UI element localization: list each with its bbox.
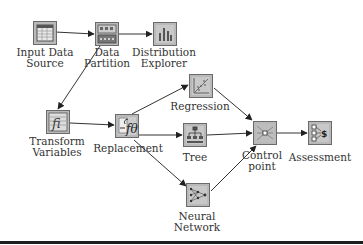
neural-network-label: Neural Network	[174, 211, 220, 233]
neural-network-icon	[187, 184, 209, 206]
control-point-label: Control point	[242, 150, 282, 172]
svg-text:fθ: fθ	[125, 122, 138, 136]
neural-network-node[interactable]	[186, 183, 210, 207]
decision-tree-icon	[184, 124, 206, 146]
regression-label: Regression	[170, 101, 229, 112]
scatter-regression-icon	[190, 75, 212, 97]
data-table-icon	[34, 22, 56, 44]
distribution-explorer-label: Distribution Explorer	[132, 47, 196, 69]
regression-node[interactable]	[189, 74, 213, 98]
edge-transform-replacement	[70, 123, 114, 125]
bottom-divider	[0, 241, 363, 244]
edge-input-partition	[55, 32, 94, 34]
control-point-icon	[254, 122, 276, 144]
distribution-explorer-node[interactable]	[153, 22, 177, 46]
transform-icon: fi	[47, 111, 69, 133]
input-data-source-node[interactable]	[33, 21, 57, 45]
svg-text:$: $	[321, 129, 327, 139]
tree-node[interactable]	[183, 123, 207, 147]
replacement-label: Replacement	[93, 143, 163, 154]
bar-chart-icon	[154, 23, 176, 45]
assessment-label: Assessment	[289, 152, 352, 163]
replacement-function-icon: fθ	[116, 115, 138, 137]
transform-variables-node[interactable]: fi	[46, 110, 70, 134]
transform-variables-label: Transform Variables	[29, 136, 85, 158]
svg-text:fi: fi	[51, 116, 61, 131]
assessment-node[interactable]: $	[308, 121, 332, 145]
process-flow-diagram: Input Data Source Data Partition Distrib…	[0, 0, 363, 245]
input-data-source-label: Input Data Source	[16, 47, 73, 69]
data-partition-icon	[96, 23, 118, 45]
data-partition-node[interactable]	[95, 22, 119, 46]
control-point-node[interactable]	[253, 121, 277, 145]
edge-tree-control	[207, 133, 252, 135]
tree-label: Tree	[183, 152, 207, 163]
assessment-dollar-icon: $	[309, 122, 331, 144]
data-partition-label: Data Partition	[84, 47, 130, 69]
replacement-node[interactable]: fθ	[115, 114, 139, 138]
